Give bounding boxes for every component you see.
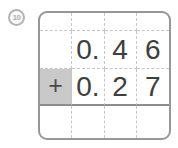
- answer-cell-ones: [72, 106, 104, 138]
- answer-cell-hundredths: [137, 106, 169, 138]
- answer-cell-blank: [40, 106, 72, 138]
- grid-cell-addend2-tenths: 2: [105, 69, 137, 106]
- operator-cell: +: [40, 69, 72, 106]
- grid-cell-addend1-hundredths: 6: [137, 31, 169, 69]
- problem-number-badge: 10: [8, 9, 25, 26]
- plus-icon: +: [48, 73, 63, 98]
- grid-cell-addend2-hundredths: 7: [137, 69, 169, 106]
- grid-cell-addend2-ones: 0.: [72, 69, 104, 106]
- grid-cell-carry-1: [40, 13, 72, 31]
- grid-cell-addend1-blank: [40, 31, 72, 69]
- grid-cell-addend1-ones: 0.: [72, 31, 104, 69]
- worksheet-problem: 10 0. 4 6 + 0. 2 7: [0, 0, 178, 148]
- grid-cell-carry-2: [72, 13, 104, 31]
- grid-cell-carry-4: [137, 13, 169, 31]
- grid-cell-addend1-tenths: 4: [105, 31, 137, 69]
- place-value-grid: 0. 4 6 + 0. 2 7: [38, 11, 171, 140]
- answer-cell-tenths: [105, 106, 137, 138]
- grid-cell-carry-3: [105, 13, 137, 31]
